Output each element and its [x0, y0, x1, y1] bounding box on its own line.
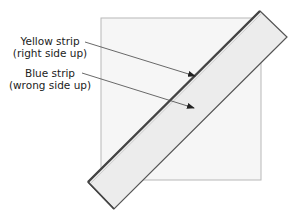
- blue-strip-label-line1: Blue strip: [4, 67, 96, 79]
- yellow-strip-label-line1: Yellow strip: [8, 35, 92, 47]
- blue-strip-label-line2: (wrong side up): [4, 79, 96, 91]
- strip-overlap-diagram: Yellow strip (right side up) Blue strip …: [0, 0, 296, 224]
- blue-strip-label: Blue strip (wrong side up): [4, 67, 96, 91]
- yellow-strip-label-line2: (right side up): [8, 47, 92, 59]
- diagram-graphic: [0, 0, 296, 224]
- yellow-strip-label: Yellow strip (right side up): [8, 35, 92, 59]
